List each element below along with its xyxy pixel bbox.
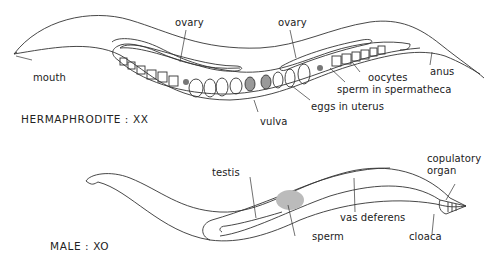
label-sperm-in-spermatheca: sperm in spermatheca [337,84,451,96]
worm-anatomy-diagram: ovary ovary mouth oocytes anus sperm in … [0,0,485,258]
hermaphrodite-title: HERMAPHRODITE : XX [21,113,148,125]
label-vulva: vulva [260,116,288,128]
label-mouth: mouth [33,72,66,84]
male-title: MALE : XO [50,240,109,252]
oocyte-cells-left [120,58,178,86]
label-ovary-right: ovary [278,17,307,29]
label-copulatory-organ-line2: organ [427,165,456,177]
label-copulatory-organ-line1: copulatory [427,153,481,165]
label-cloaca: cloaca [409,231,442,243]
label-eggs-in-uterus: eggs in uterus [311,101,384,113]
label-anus: anus [430,66,454,78]
label-vas-deferens: vas deferens [340,212,405,224]
label-testis: testis [212,167,240,179]
label-ovary-left: ovary [175,17,204,29]
male-body [86,168,466,241]
label-sperm: sperm [312,231,344,243]
label-oocytes: oocytes [368,72,408,84]
diagram-drawing [0,0,485,258]
hermaphrodite-body [14,15,484,112]
